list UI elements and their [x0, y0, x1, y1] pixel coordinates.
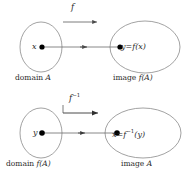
inverse-map-label-exponent: −1	[72, 92, 80, 98]
inverse-domain-point-dot	[39, 130, 45, 136]
forward-mapping-panel: f x y=f(x) domain A image f(A)	[0, 0, 184, 91]
inverse-image-caption-word: image	[121, 159, 144, 168]
image-caption: image f(A)	[113, 73, 153, 82]
inverse-image-caption: image A	[121, 159, 152, 168]
inverse-panel-graphics	[0, 91, 184, 182]
domain-point-label: x	[32, 43, 37, 51]
image-point-equation: y=f(x)	[121, 43, 146, 51]
forward-map-label: f	[71, 3, 74, 12]
inverse-domain-caption-set: f(A)	[37, 159, 51, 168]
domain-caption-set: A	[46, 73, 51, 82]
domain-point-dot	[39, 44, 44, 49]
inverse-equation-argument: (y)	[134, 130, 145, 139]
inverse-map-label: f−1	[69, 93, 80, 102]
domain-caption: domain A	[15, 73, 51, 82]
image-caption-word: image	[113, 73, 136, 82]
inverse-image-point-equation: x=f−1(y)	[112, 129, 145, 139]
inverse-domain-caption-word: domain	[6, 159, 34, 168]
equation-argument: (x)	[135, 42, 146, 51]
function-inverse-diagram: f x y=f(x) domain A image f(A)	[0, 0, 184, 182]
inverse-domain-caption: domain f(A)	[6, 159, 51, 168]
domain-caption-word: domain	[15, 73, 43, 82]
inverse-mapping-panel: f−1 y x=f−1(y) domain f(A) image A	[0, 91, 184, 182]
inverse-image-caption-set: A	[147, 159, 152, 168]
image-caption-set: f(A)	[139, 73, 153, 82]
inverse-domain-point-label: y	[33, 129, 38, 137]
